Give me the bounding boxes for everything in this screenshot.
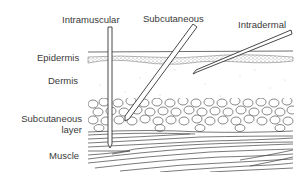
epidermis-layer: [88, 51, 293, 64]
intramuscular-needle: [108, 27, 112, 148]
label-dermis: Dermis: [48, 75, 78, 86]
intradermal-needle: [193, 30, 292, 74]
label-subcutaneous-layer-line1: Subcutaneous: [17, 113, 82, 124]
injection-routes-diagram: Intramuscular Subcutaneous Intradermal E…: [0, 0, 307, 187]
subcutaneous-fat-layer: [88, 97, 297, 132]
label-subcutaneous-layer-line2: layer: [17, 124, 82, 135]
label-subcutaneous: Subcutaneous: [143, 13, 204, 24]
label-intradermal: Intradermal: [238, 19, 286, 30]
label-intramuscular: Intramuscular: [62, 14, 120, 25]
label-muscle: Muscle: [49, 150, 79, 161]
muscle-layer: [88, 131, 293, 173]
label-epidermis: Epidermis: [37, 52, 79, 63]
dermis-layer: [100, 70, 286, 97]
